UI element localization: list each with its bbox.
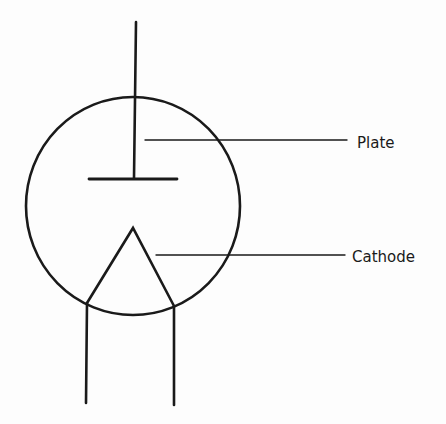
diode-tube-diagram: Plate Cathode xyxy=(0,0,446,424)
plate-label: Plate xyxy=(357,134,395,152)
cathode-label: Cathode xyxy=(352,248,415,266)
tube-envelope xyxy=(26,97,240,315)
cathode-electrode xyxy=(87,228,174,306)
plate-lead xyxy=(134,22,136,178)
cathode-lead-left xyxy=(86,303,87,403)
